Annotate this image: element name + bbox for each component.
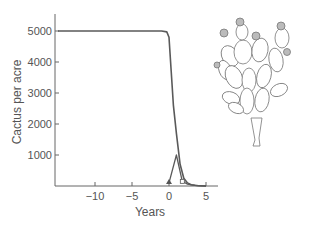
x-tick-label: 0: [166, 190, 172, 202]
y-tick-label: 3000: [28, 87, 52, 99]
x-axis-title: Years: [135, 205, 165, 219]
triangle-marker-icon: [166, 179, 172, 184]
cactus-flower: [277, 22, 285, 30]
cactus-trunk: [251, 118, 262, 146]
y-tick-label: 1000: [28, 149, 52, 161]
y-ticks: 10002000300040005000: [28, 25, 59, 161]
x-tick-label: −5: [126, 190, 139, 202]
cactus-pad: [253, 87, 271, 113]
cactus-flower: [220, 29, 228, 37]
y-tick-label: 4000: [28, 56, 52, 68]
cactus-flower: [284, 49, 291, 56]
cactus-illustration: [214, 18, 291, 146]
cactus-pad: [236, 24, 248, 40]
series-line-1: [169, 155, 206, 186]
cactus-chart: 10002000300040005000 −10−505 Years Cactu…: [0, 0, 309, 225]
square-marker-icon: [180, 179, 184, 183]
series-line-0: [58, 31, 206, 186]
y-axis-title: Cactus per acre: [10, 59, 24, 144]
y-tick-label: 2000: [28, 118, 52, 130]
cactus-pad: [268, 81, 289, 99]
cactus-flower: [236, 18, 244, 26]
cactus-flower: [252, 32, 260, 40]
cactus-pad: [234, 40, 252, 64]
x-tick-label: −10: [86, 190, 105, 202]
y-tick-label: 5000: [28, 25, 52, 37]
cactus-pad: [250, 37, 270, 63]
cactus-pad: [275, 28, 289, 48]
x-tick-label: 5: [203, 190, 209, 202]
cactus-flower: [214, 62, 220, 68]
plot-series: [58, 31, 206, 186]
